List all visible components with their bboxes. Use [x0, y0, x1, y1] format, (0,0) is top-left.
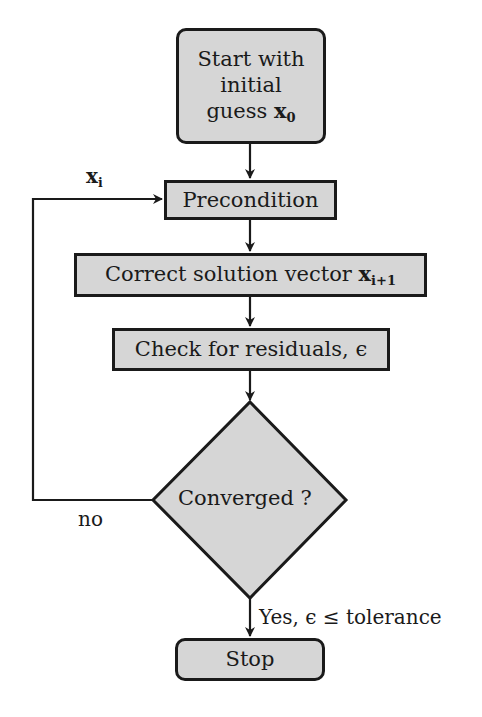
- yes-label: Yes, ϵ ≤ tolerance: [259, 605, 442, 629]
- check-node: Check for residuals, ϵ: [112, 328, 390, 371]
- start-line3: guess x0: [197, 98, 304, 126]
- check-label: Check for residuals, ϵ: [135, 336, 367, 362]
- loop-variable-label: xi: [86, 164, 103, 190]
- no-label: no: [78, 507, 103, 531]
- correct-node: Correct solution vector xi+1: [74, 253, 427, 297]
- start-line1: Start with: [197, 46, 304, 72]
- start-node: Start with initial guess x0: [176, 28, 326, 144]
- decision-label: Converged ?: [178, 486, 312, 510]
- correct-label: Correct solution vector xi+1: [105, 261, 396, 289]
- stop-label: Stop: [226, 646, 275, 672]
- stop-node: Stop: [175, 638, 325, 681]
- precondition-node: Precondition: [164, 180, 337, 220]
- precondition-label: Precondition: [182, 187, 318, 213]
- start-line2: initial: [197, 72, 304, 98]
